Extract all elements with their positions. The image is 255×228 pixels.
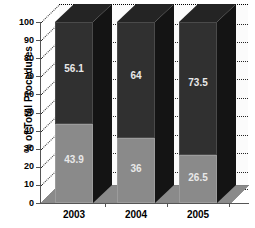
- x-label-2005: 2005: [173, 209, 223, 221]
- bar-group-2005[interactable]: 73.5 26.5: [179, 22, 217, 203]
- y-tick-70: [36, 76, 41, 77]
- bar-segment-lower-2004[interactable]: 36: [117, 138, 155, 203]
- bar-side-2003: [93, 4, 112, 203]
- y-tick-80: [36, 58, 41, 59]
- y-tick-40: [36, 131, 41, 132]
- bar-front-2004: 64 36: [117, 22, 155, 203]
- y-tick-label-30: 30: [0, 144, 34, 153]
- x-label-2003: 2003: [49, 209, 99, 221]
- bar-side-2005: [217, 4, 236, 203]
- bar-front-2005: 73.5 26.5: [179, 22, 217, 203]
- y-tick-50: [36, 113, 41, 114]
- bar-label-upper-2005: 73.5: [180, 78, 216, 88]
- bar-side-2004: [155, 4, 174, 203]
- bar-label-upper-2004: 64: [118, 71, 154, 81]
- y-tick-label-0: 0: [0, 199, 34, 208]
- y-tick-label-50: 50: [0, 108, 34, 117]
- bar-top-face-2003: [55, 4, 112, 23]
- bar-label-upper-2003: 56.1: [56, 64, 92, 74]
- y-tick-10: [36, 185, 41, 186]
- y-tick-30: [36, 149, 41, 150]
- bar-segment-upper-2004[interactable]: 64: [117, 22, 155, 138]
- bar-segment-upper-2005[interactable]: 73.5: [179, 22, 217, 155]
- y-tick-label-10: 10: [0, 180, 34, 189]
- bar-label-lower-2003: 43.9: [56, 155, 92, 165]
- y-tick-label-90: 90: [0, 36, 34, 45]
- y-tick-label-80: 80: [0, 54, 34, 63]
- x-tick-1: [105, 203, 106, 207]
- x-tick-3: [229, 203, 230, 207]
- y-tick-60: [36, 94, 41, 95]
- y-tick-label-60: 60: [0, 90, 34, 99]
- x-tick-2: [167, 203, 168, 207]
- bar-top-face-2005: [179, 4, 236, 23]
- x-axis-line: [40, 203, 249, 204]
- bar-top-face-2004: [117, 4, 174, 23]
- y-tick-100: [36, 22, 41, 23]
- y-tick-label-40: 40: [0, 126, 34, 135]
- y-tick-label-20: 20: [0, 162, 34, 171]
- y-tick-90: [36, 40, 41, 41]
- bar-segment-lower-2005[interactable]: 26.5: [179, 155, 217, 203]
- y-tick-label-100: 100: [0, 18, 34, 27]
- bar-label-lower-2004: 36: [118, 164, 154, 174]
- bar-segment-upper-2003[interactable]: 56.1: [55, 22, 93, 124]
- bar-label-lower-2005: 26.5: [180, 173, 216, 183]
- bar-segment-lower-2003[interactable]: 43.9: [55, 124, 93, 204]
- bar-front-2003: 56.1 43.9: [55, 22, 93, 203]
- bar-group-2004[interactable]: 64 36: [117, 22, 155, 203]
- x-label-2004: 2004: [111, 209, 161, 221]
- chart-container: % of Total Procedures: [0, 0, 255, 228]
- bar-group-2003[interactable]: 56.1 43.9: [55, 22, 93, 203]
- y-tick-20: [36, 167, 41, 168]
- y-tick-label-70: 70: [0, 72, 34, 81]
